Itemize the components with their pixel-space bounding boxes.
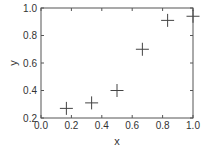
plus-marker-icon (111, 84, 124, 97)
y-tick-label: 1.0 (23, 3, 37, 14)
scatter-chart: 0.00.20.40.60.81.0 0.20.40.60.81.0 x y (0, 0, 210, 152)
plus-marker-icon (85, 96, 98, 109)
x-tick-label: 0.4 (95, 120, 109, 131)
x-tick-label: 0.8 (156, 120, 170, 131)
y-tick-label: 0.8 (23, 30, 37, 41)
plus-marker-icon (187, 10, 200, 23)
y-tick-label: 0.6 (23, 58, 37, 69)
x-axis-label: x (114, 135, 120, 147)
plus-marker-icon (161, 14, 174, 27)
plus-marker-icon (60, 102, 73, 115)
x-axis-ticks: 0.00.20.40.60.81.0 (34, 8, 200, 131)
y-tick-label: 0.4 (23, 85, 37, 96)
x-tick-label: 1.0 (186, 120, 200, 131)
plot-frame (41, 8, 193, 118)
data-points (60, 10, 200, 115)
y-tick-label: 0.2 (23, 113, 37, 124)
x-tick-label: 0.2 (64, 120, 78, 131)
y-axis-label: y (7, 60, 19, 66)
plus-marker-icon (136, 43, 149, 56)
x-tick-label: 0.6 (125, 120, 139, 131)
